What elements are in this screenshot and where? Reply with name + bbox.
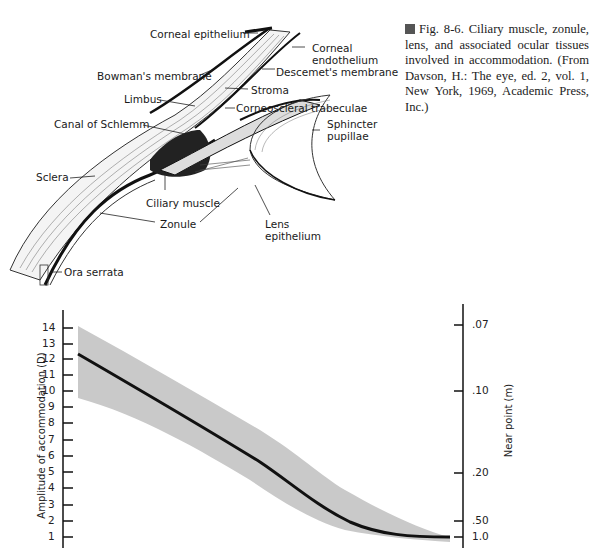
y-tick: 6	[48, 449, 55, 461]
label-sclera: Sclera	[36, 171, 69, 183]
label-canal-of-schlemm: Canal of Schlemm	[54, 118, 150, 130]
y-right-tick: .07	[472, 318, 489, 330]
y-right-tick: 1.0	[472, 530, 489, 542]
y-tick: 3	[48, 498, 55, 510]
label-bowmans-membrane: Bowman's membrane	[97, 70, 212, 82]
label-corneal-epithelium: Corneal epithelium	[150, 28, 250, 40]
y-tick: 14	[42, 321, 55, 333]
label-descemets-membrane: Descemet's membrane	[276, 66, 398, 78]
y-tick: 7	[48, 433, 55, 445]
y-right-tick: .10	[472, 384, 489, 396]
label-ciliary-muscle: Ciliary muscle	[146, 197, 220, 209]
label-ora-serrata: Ora serrata	[64, 266, 124, 278]
label-limbus: Limbus	[124, 93, 162, 105]
caption-figure-number: Fig. 8-6.	[419, 22, 464, 36]
y-tick: 13	[42, 337, 55, 349]
label-corneal-endothelium-2: endothelium	[312, 54, 378, 66]
figure-caption: Fig. 8-6. Ciliary muscle, zonule, lens, …	[405, 22, 589, 115]
y-tick: 4	[48, 481, 55, 493]
y-right-axis-title: Near point (m)	[503, 371, 514, 471]
y-axis-title: Amplitude of accommodation (D)	[36, 351, 47, 521]
label-lens-epithelium: Lens	[265, 218, 289, 230]
label-sphincter-pupillae: Sphincter	[327, 118, 377, 130]
y-tick: 2	[48, 514, 55, 526]
y-tick: 9	[48, 400, 55, 412]
accommodation-chart: 14 13 12 11 10 9 8 7 6 5 4 3 2 1 Amplitu…	[0, 290, 598, 548]
label-lens-epithelium-2: epithelium	[265, 230, 321, 242]
y-right-tick: .50	[472, 514, 489, 526]
label-corneoscleral-trabeculae: Corneoscleral trabeculae	[236, 102, 367, 114]
label-zonule: Zonule	[160, 218, 196, 230]
y-tick: 8	[48, 416, 55, 428]
label-sphincter-pupillae-2: pupillae	[327, 130, 369, 142]
y-tick: 5	[48, 465, 55, 477]
y-tick: 1	[48, 530, 55, 542]
label-stroma: Stroma	[251, 84, 289, 96]
ocular-anatomy-figure: Corneal epithelium Corneal endothelium B…	[0, 0, 390, 290]
label-corneal-endothelium: Corneal	[312, 42, 352, 54]
caption-marker-icon	[405, 24, 415, 34]
y-right-tick: .20	[472, 466, 489, 478]
range-band	[78, 326, 450, 542]
